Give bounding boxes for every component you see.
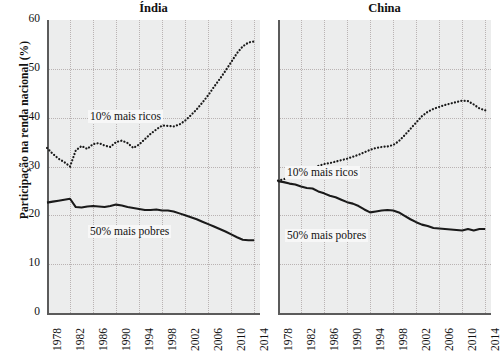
series-label-poor-china: 50% mais pobres <box>285 229 368 242</box>
series-label-rich-china: 10% mais ricos <box>285 166 360 179</box>
series-label-rich-india: 10% mais ricos <box>88 110 163 123</box>
series-line-poor <box>278 181 485 230</box>
dual-panel-chart: Participação na renda nacional (%) Índia… <box>0 0 501 355</box>
series-label-poor-india: 50% mais pobres <box>88 225 171 238</box>
series-layer <box>0 0 501 355</box>
